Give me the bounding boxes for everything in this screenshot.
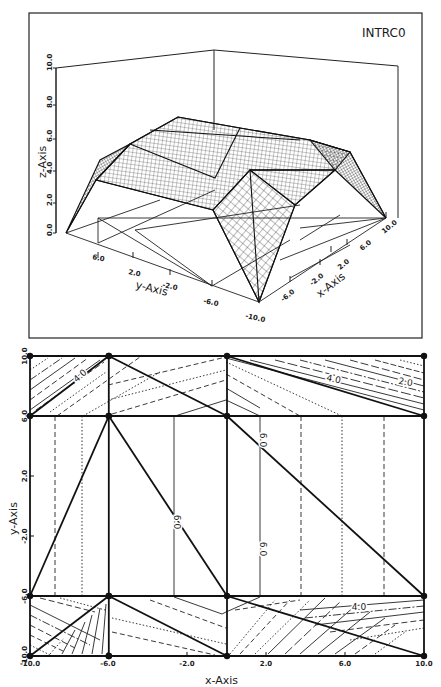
data-node [224,593,230,599]
contour-y-tick-label: -2.0 [21,528,29,543]
y-tick-label: -10.0 [245,312,267,324]
triangulation-edge [227,416,424,596]
surface-x-axis: -6.0-2.02.06.010.0 x-Axis [279,212,399,304]
contour-y-tick-label: 10.0 [21,347,29,364]
data-node [106,653,112,659]
figure: INTRC0 [0,0,441,687]
data-node [421,353,427,359]
triangulation-edge [109,596,227,656]
contour-label: 4.0 [352,602,367,612]
z-tick-label: 10.0 [46,54,54,71]
triangulation-edge [30,416,109,596]
contour-x-tick-label: 2.0 [260,660,273,668]
contour-x-axis-label: x-Axis [205,674,238,687]
surface-plot-title: INTRC0 [362,26,406,40]
contour-y-tick-label: -6.0 [21,588,29,603]
y-tick-label: 6.0 [92,253,106,263]
contour-y-tick-label: 2.0 [21,470,29,483]
data-node [224,653,230,659]
x-tick-label: 6.0 [358,239,373,253]
triangulation-edge [109,356,227,416]
x-tick-label: 2.0 [336,258,351,272]
data-node [421,593,427,599]
z-tick-label: 0.0 [46,223,54,236]
data-node [224,413,230,419]
contour-label: 6.0 [258,542,268,557]
data-node [106,593,112,599]
contour-y-axis-ticks: 10.06.02.0-2.0-6.0-10.0 [21,347,34,666]
contour-x-tick-label: 10.0 [415,660,432,668]
contour-label: 4.0 [326,373,342,386]
z-tick-label: 2.0 [46,193,54,206]
data-node [224,353,230,359]
surface-plot-panel: INTRC0 [29,13,422,338]
z-tick-label: 8.0 [46,95,54,108]
contour-y-tick-label: 6.0 [21,410,29,423]
data-node [106,413,112,419]
contour-label: 2.0 [398,376,414,388]
data-node [421,413,427,419]
triangulation-edge [30,356,109,416]
surface-z-axis-label: z-Axis [36,145,49,178]
contour-labels: 4.04.02.06.06.06.04.0 [71,367,413,612]
contour-label: 6.0 [172,515,182,530]
surface-z-axis: 0.02.04.06.08.010.0 z-Axis [36,54,56,236]
y-tick-label: -6.0 [203,297,220,308]
triangulation-edge [109,416,227,596]
y-tick-label: 2.0 [128,268,142,278]
contour-x-tick-label: -6.0 [100,660,115,668]
contour-plot-panel: 4.04.02.06.06.06.04.0 -10.0-6.0-2.02.06.… [7,347,433,687]
triangulation-edge [227,596,424,656]
contour-y-axis-label: y-Axis [7,502,20,535]
x-tick-label: -6.0 [279,288,296,304]
contour-x-tick-label: 6.0 [339,660,352,668]
z-tick-label: 6.0 [46,129,54,142]
data-node [106,353,112,359]
contour-y-tick-label: -10.0 [21,646,29,666]
contour-label: 6.0 [258,433,268,448]
contour-x-tick-label: -2.0 [179,660,194,668]
x-tick-label: 10.0 [380,219,399,236]
